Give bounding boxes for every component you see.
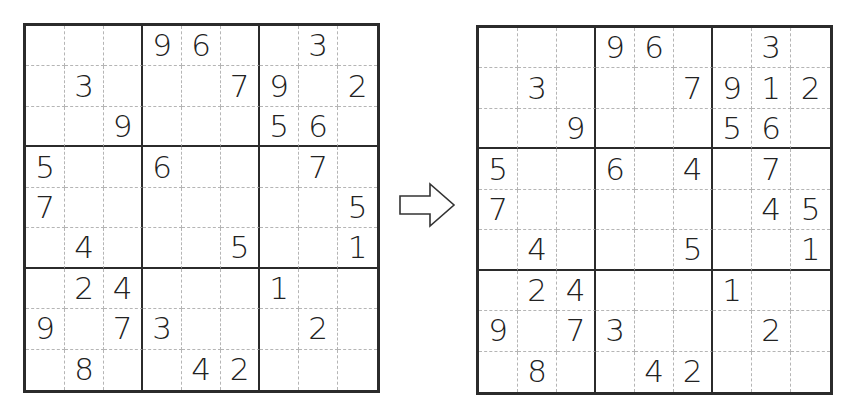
sudoku-cell-r4c2: [65, 147, 104, 187]
sudoku-cell-r2c1: [479, 68, 518, 108]
sudoku-cell-r8c7: [260, 309, 299, 349]
sudoku-cell-r8c5: [182, 309, 221, 349]
sudoku-cell-r2c8: [299, 66, 338, 106]
sudoku-cell-r2c2: 3: [518, 68, 557, 108]
sudoku-cell-r4c5: [635, 149, 674, 189]
sudoku-cell-r3c7: 5: [260, 107, 299, 147]
sudoku-cell-r7c8: [752, 271, 791, 311]
sudoku-cell-r7c3: 4: [557, 271, 596, 311]
sudoku-cell-r5c3: [104, 188, 143, 228]
sudoku-cell-r6c6: 5: [674, 230, 713, 270]
sudoku-cell-r7c4: [143, 269, 182, 309]
sudoku-cell-r5c2: [518, 190, 557, 230]
sudoku-cell-r5c4: [143, 188, 182, 228]
sudoku-cell-r7c9: [791, 271, 830, 311]
sudoku-cell-r7c2: 2: [65, 269, 104, 309]
sudoku-cell-r5c1: 7: [479, 190, 518, 230]
sudoku-cell-r1c2: [518, 28, 557, 68]
sudoku-cell-r2c8: 1: [752, 68, 791, 108]
sudoku-cell-r4c8: 7: [299, 147, 338, 187]
sudoku-cell-r3c7: 5: [713, 109, 752, 149]
sudoku-cell-r8c4: 3: [143, 309, 182, 349]
sudoku-cell-r8c3: 7: [557, 311, 596, 351]
sudoku-grid-after: 9633791295656477454512419732842: [476, 25, 833, 395]
sudoku-cell-r4c7: [260, 147, 299, 187]
sudoku-cell-r4c6: [221, 147, 260, 187]
sudoku-cell-r3c6: [674, 109, 713, 149]
sudoku-cell-r1c8: 3: [299, 26, 338, 66]
sudoku-cell-r5c2: [65, 188, 104, 228]
sudoku-cell-r2c3: [104, 66, 143, 106]
sudoku-cell-r7c8: [299, 269, 338, 309]
sudoku-cell-r4c3: [557, 149, 596, 189]
sudoku-cell-r2c4: [143, 66, 182, 106]
sudoku-cell-r3c2: [65, 107, 104, 147]
sudoku-cell-r8c2: [65, 309, 104, 349]
sudoku-cell-r4c4: 6: [596, 149, 635, 189]
sudoku-cell-r1c9: [338, 26, 377, 66]
sudoku-cell-r4c9: [791, 149, 830, 189]
sudoku-cell-r2c2: 3: [65, 66, 104, 106]
sudoku-cell-r4c7: [713, 149, 752, 189]
sudoku-cell-r7c3: 4: [104, 269, 143, 309]
sudoku-cell-r9c5: 4: [182, 350, 221, 390]
sudoku-cell-r7c6: [674, 271, 713, 311]
sudoku-cell-r4c4: 6: [143, 147, 182, 187]
sudoku-cell-r4c3: [104, 147, 143, 187]
sudoku-cell-r4c5: [182, 147, 221, 187]
sudoku-cell-r3c3: 9: [557, 109, 596, 149]
sudoku-cell-r9c5: 4: [635, 352, 674, 392]
sudoku-cell-r9c8: [752, 352, 791, 392]
sudoku-cell-r3c4: [596, 109, 635, 149]
sudoku-cell-r2c4: [596, 68, 635, 108]
sudoku-cell-r4c1: 5: [479, 149, 518, 189]
sudoku-cell-r3c4: [143, 107, 182, 147]
sudoku-cell-r5c9: 5: [791, 190, 830, 230]
sudoku-cell-r8c8: 2: [752, 311, 791, 351]
sudoku-cell-r3c5: [182, 107, 221, 147]
sudoku-cell-r1c1: [26, 26, 65, 66]
sudoku-cell-r9c7: [713, 352, 752, 392]
sudoku-cell-r1c6: [674, 28, 713, 68]
sudoku-cell-r8c6: [221, 309, 260, 349]
sudoku-cell-r5c8: [299, 188, 338, 228]
sudoku-cell-r4c6: 4: [674, 149, 713, 189]
sudoku-cell-r6c8: [752, 230, 791, 270]
sudoku-cell-r8c6: [674, 311, 713, 351]
sudoku-cell-r6c6: 5: [221, 228, 260, 268]
sudoku-cell-r1c1: [479, 28, 518, 68]
sudoku-grid-before: 9633792956567754512419732842: [23, 23, 380, 393]
sudoku-cell-r3c1: [479, 109, 518, 149]
sudoku-cell-r9c4: [143, 350, 182, 390]
sudoku-cell-r5c3: [557, 190, 596, 230]
sudoku-cell-r1c8: 3: [752, 28, 791, 68]
sudoku-cell-r1c4: 9: [596, 28, 635, 68]
sudoku-cell-r1c5: 6: [635, 28, 674, 68]
sudoku-cell-r3c8: 6: [752, 109, 791, 149]
sudoku-cell-r6c9: 1: [791, 230, 830, 270]
sudoku-cell-r7c7: 1: [260, 269, 299, 309]
sudoku-cell-r8c1: 9: [26, 309, 65, 349]
sudoku-cell-r3c1: [26, 107, 65, 147]
sudoku-cell-r8c1: 9: [479, 311, 518, 351]
sudoku-cell-r7c5: [635, 271, 674, 311]
sudoku-cell-r2c5: [635, 68, 674, 108]
sudoku-cell-r5c1: 7: [26, 188, 65, 228]
sudoku-cell-r4c9: [338, 147, 377, 187]
sudoku-cell-r9c9: [791, 352, 830, 392]
sudoku-cell-r9c3: [557, 352, 596, 392]
sudoku-cell-r9c4: [596, 352, 635, 392]
sudoku-cell-r9c2: 8: [65, 350, 104, 390]
sudoku-cell-r6c7: [260, 228, 299, 268]
sudoku-cell-r4c8: 7: [752, 149, 791, 189]
sudoku-cell-r2c5: [182, 66, 221, 106]
sudoku-cell-r2c6: 7: [221, 66, 260, 106]
sudoku-cell-r9c1: [479, 352, 518, 392]
sudoku-cell-r4c1: 5: [26, 147, 65, 187]
sudoku-cell-r7c6: [221, 269, 260, 309]
sudoku-cell-r2c9: 2: [338, 66, 377, 106]
sudoku-cell-r2c6: 7: [674, 68, 713, 108]
sudoku-cell-r9c6: 2: [221, 350, 260, 390]
sudoku-cell-r6c5: [635, 230, 674, 270]
right-arrow-icon: [396, 180, 458, 230]
